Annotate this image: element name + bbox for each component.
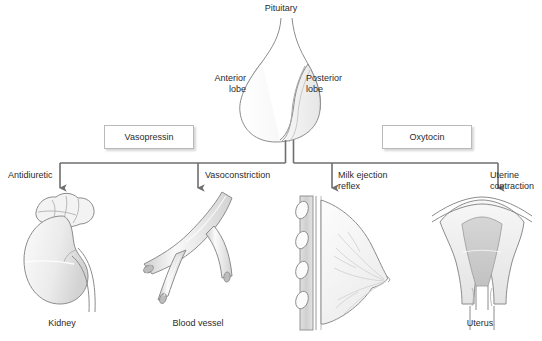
page-title: Pituitary	[246, 3, 316, 14]
anterior-lobe-label: Anterior lobe	[186, 73, 246, 95]
hormone-label: Vasopressin	[125, 132, 174, 142]
posterior-lobe-label: Posterior lobe	[306, 73, 366, 95]
effect-label-vasoconstriction: Vasoconstriction	[205, 170, 295, 181]
organ-caption-uterus: Uterus	[450, 318, 510, 329]
kidney-illustration	[24, 193, 95, 312]
effect-label-antidiuretic: Antidiuretic	[8, 170, 88, 181]
effect-label-milk-ejection-reflex: Milk ejection reflex	[338, 170, 408, 192]
breast-illustration	[294, 196, 390, 330]
organ-caption-blood-vessel: Blood vessel	[158, 318, 238, 329]
effect-label-uterine-contraction: Uterine contraction	[490, 170, 542, 192]
uterus-illustration	[432, 197, 532, 330]
hormone-box-vasopressin[interactable]: Vasopressin	[104, 125, 194, 149]
hormone-label: Oxytocin	[409, 132, 444, 142]
blood-vessel-illustration	[142, 192, 232, 304]
organ-caption-kidney: Kidney	[32, 318, 92, 329]
hormone-box-oxytocin[interactable]: Oxytocin	[382, 125, 472, 149]
